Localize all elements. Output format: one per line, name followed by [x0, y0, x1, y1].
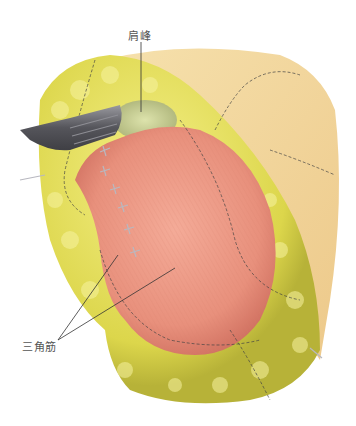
acromion-label: 肩峰 [128, 27, 151, 43]
shoulder-surgery-drawing [0, 0, 356, 426]
anatomical-illustration: 肩峰 三角筋 [0, 0, 356, 426]
deltoid-label: 三角筋 [22, 338, 57, 354]
